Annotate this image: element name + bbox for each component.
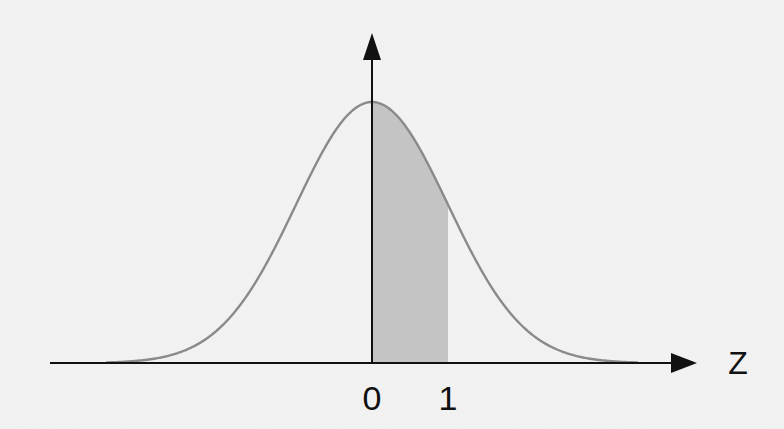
tick-label-1: 1	[439, 379, 458, 417]
tick-label-0: 0	[363, 379, 382, 417]
diagram-canvas: 0 1 Z	[0, 0, 784, 429]
normal-distribution-diagram: 0 1 Z	[0, 0, 784, 429]
x-axis-label: Z	[728, 345, 748, 381]
